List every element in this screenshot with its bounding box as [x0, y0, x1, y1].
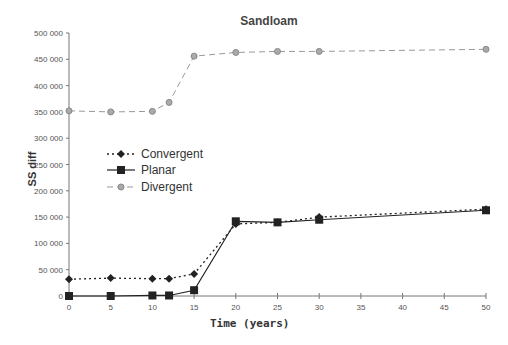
x-tick-label: 45 — [440, 303, 449, 312]
data-point-planar — [107, 292, 115, 300]
data-point-divergent — [108, 109, 114, 115]
legend-marker-divergent — [118, 184, 124, 190]
data-point-convergent — [148, 275, 156, 283]
data-point-divergent — [275, 48, 281, 54]
x-tick-label: 50 — [482, 303, 491, 312]
y-tick-label: 150 000 — [34, 213, 63, 222]
x-tick-label: 30 — [315, 303, 324, 312]
y-tick-label: 100 000 — [34, 239, 63, 248]
data-point-planar — [148, 291, 156, 299]
data-point-divergent — [166, 99, 172, 105]
data-point-divergent — [483, 46, 489, 52]
y-tick-label: 200 000 — [34, 187, 63, 196]
x-tick-label: 10 — [148, 303, 157, 312]
x-tick-label: 0 — [67, 303, 72, 312]
data-point-planar — [274, 218, 282, 226]
data-point-planar — [65, 292, 73, 300]
series-line-divergent — [69, 49, 486, 112]
data-point-divergent — [191, 53, 197, 59]
y-tick-label: 50 000 — [39, 266, 64, 275]
data-point-planar — [232, 217, 240, 225]
data-point-divergent — [233, 49, 239, 55]
x-tick-label: 15 — [190, 303, 199, 312]
legend-label-divergent: Divergent — [141, 180, 193, 194]
data-point-convergent — [165, 275, 173, 283]
y-tick-label: 450 000 — [34, 55, 63, 64]
x-tick-label: 35 — [356, 303, 365, 312]
x-tick-label: 25 — [273, 303, 282, 312]
y-tick-label: 350 000 — [34, 108, 63, 117]
line-chart-plot: 050 000100 000150 000200 000250 000300 0… — [0, 0, 508, 345]
data-point-divergent — [149, 108, 155, 114]
legend-marker-convergent — [117, 150, 125, 158]
y-tick-label: 250 000 — [34, 161, 63, 170]
data-point-convergent — [190, 270, 198, 278]
data-point-divergent — [66, 108, 72, 114]
data-point-convergent — [107, 274, 115, 282]
y-tick-label: 400 000 — [34, 82, 63, 91]
legend-label-convergent: Convergent — [141, 147, 204, 161]
y-tick-label: 300 000 — [34, 134, 63, 143]
legend-label-planar: Planar — [141, 163, 176, 177]
data-point-planar — [482, 206, 490, 214]
data-point-planar — [315, 216, 323, 224]
data-point-planar — [165, 291, 173, 299]
x-tick-label: 5 — [108, 303, 113, 312]
data-point-divergent — [316, 48, 322, 54]
x-tick-label: 40 — [398, 303, 407, 312]
y-tick-label: 500 000 — [34, 29, 63, 38]
x-tick-label: 20 — [231, 303, 240, 312]
data-point-convergent — [65, 275, 73, 283]
data-point-planar — [190, 286, 198, 294]
legend-marker-planar — [117, 166, 125, 174]
y-tick-label: 0 — [59, 292, 64, 301]
